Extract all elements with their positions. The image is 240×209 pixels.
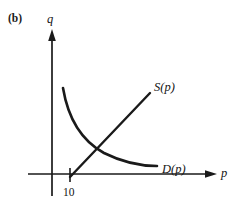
tick-label-10: 10 xyxy=(63,186,75,198)
quantity-axis xyxy=(48,29,56,196)
panel-label: (b) xyxy=(8,12,22,24)
quantity-axis-arrowhead xyxy=(48,29,56,41)
price-axis-arrowhead xyxy=(205,170,217,178)
plot-canvas xyxy=(0,0,240,209)
demand-curve-label: D(p) xyxy=(162,162,186,177)
price-axis xyxy=(28,170,217,178)
price-axis-label: p xyxy=(221,166,227,181)
quantity-axis-label: q xyxy=(47,12,53,27)
supply-demand-figure: (b) q p S(p) D(p) 10 xyxy=(0,0,240,209)
supply-curve-label: S(p) xyxy=(154,80,175,95)
